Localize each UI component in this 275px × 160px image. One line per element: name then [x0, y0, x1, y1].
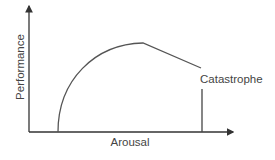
x-axis-label: Arousal: [111, 136, 150, 148]
performance-curve: [58, 43, 201, 132]
catastrophe-label: Catastrophe: [200, 73, 263, 85]
y-axis-label: Performance: [14, 34, 26, 100]
